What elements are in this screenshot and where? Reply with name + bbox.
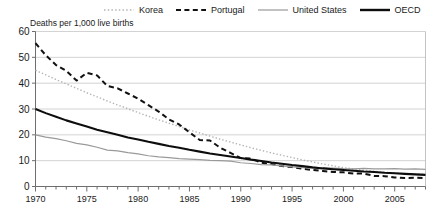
series-line-oecd [36,109,426,175]
infant-mortality-chart: Korea Portugal United States OECD Deaths… [0,0,441,224]
svg-text:10: 10 [18,155,30,166]
svg-text:30: 30 [18,104,30,115]
svg-text:2005: 2005 [385,194,405,204]
svg-text:1985: 1985 [179,194,199,204]
y-tick-labels: 0102030405060 [18,26,30,192]
svg-text:1990: 1990 [231,194,251,204]
x-axis [36,187,426,192]
svg-text:2000: 2000 [333,194,353,204]
series-line-korea [36,70,426,174]
svg-text:1980: 1980 [128,194,148,204]
y-axis [32,32,36,187]
svg-text:40: 40 [18,78,30,89]
x-tick-labels: 19701975198019851990199520002005 [25,194,404,204]
svg-text:1995: 1995 [282,194,302,204]
svg-text:0: 0 [24,181,30,192]
svg-text:20: 20 [18,129,30,140]
svg-text:1975: 1975 [77,194,97,204]
svg-text:1970: 1970 [25,194,45,204]
gridlines [36,32,426,187]
svg-text:60: 60 [18,26,30,37]
series-line-portugal [36,43,426,178]
svg-text:50: 50 [18,52,30,63]
plot-area: 0102030405060 19701975198019851990199520… [0,0,441,224]
data-series [36,43,426,178]
